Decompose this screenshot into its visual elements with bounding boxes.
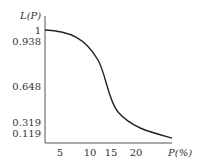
x-tick-label: 5: [57, 147, 63, 158]
y-tick-label: 0.938: [12, 36, 41, 47]
y-tick-label: 1: [35, 25, 41, 36]
x-tick-label: 10: [84, 147, 97, 158]
y-tick-label: 0.648: [12, 81, 41, 92]
x-axis-title: P(%): [167, 147, 192, 158]
lorenz-curve: [45, 30, 172, 138]
y-axis-title: L(P): [19, 10, 41, 21]
x-tick-label: 20: [130, 147, 143, 158]
x-tick-label: 15: [105, 147, 118, 158]
y-tick-label: 0.119: [12, 128, 41, 139]
y-tick-label: 0.319: [12, 117, 41, 128]
chart-canvas: L(P) 1 0.938 0.648 0.319 0.119 5 10 15 2…: [0, 0, 198, 168]
